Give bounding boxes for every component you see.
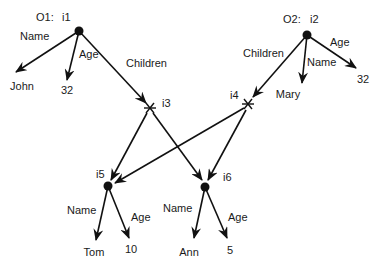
edge-arrow: [208, 110, 246, 180]
object-node-dot-icon: [303, 31, 312, 40]
object-node-dot-icon: [75, 27, 84, 36]
node-label: i2: [310, 13, 319, 25]
values-layer: John32Mary32Tom10Ann5: [10, 73, 369, 258]
edge-label: Name: [67, 204, 96, 216]
object-node-dot-icon: [104, 182, 113, 191]
value-label-age5: 5: [227, 244, 233, 256]
edge-label: Children: [126, 57, 167, 69]
edge-label: Age: [330, 36, 350, 48]
value-label-age32a: 32: [61, 84, 73, 96]
edge-label: Age: [131, 211, 151, 223]
nodes-layer: i1O1:i2O2:i3i4i5i6: [36, 11, 319, 192]
edge-label: Children: [243, 47, 284, 59]
edge-arrow: [96, 186, 108, 240]
value-label-ann: Ann: [179, 246, 199, 258]
node-label: i3: [162, 97, 171, 109]
object-name-label: O2:: [283, 13, 301, 25]
edge-label: Name: [307, 56, 336, 68]
edge-label: Name: [20, 30, 49, 42]
object-node-dot-icon: [201, 183, 210, 192]
edge-arrow: [205, 187, 227, 238]
value-label-age32b: 32: [357, 73, 369, 85]
node-label: i6: [223, 171, 232, 183]
node-label: i5: [96, 168, 105, 180]
edge-label: Age: [228, 211, 248, 223]
object-graph-diagram: NameAgeChildrenChildrenNameAgeNameAgeNam…: [0, 0, 381, 265]
object-name-label: O1:: [36, 11, 54, 23]
edge-arrow: [108, 186, 129, 238]
edge-arrow: [111, 113, 147, 180]
node-label: i4: [230, 89, 239, 101]
value-label-tom: Tom: [84, 246, 105, 258]
value-label-age10: 10: [125, 243, 137, 255]
edge-labels-layer: NameAgeChildrenChildrenNameAgeNameAgeNam…: [20, 30, 350, 223]
value-label-john: John: [10, 80, 34, 92]
node-label: i1: [62, 11, 71, 23]
edge-arrow: [194, 187, 205, 238]
edge-label: Age: [79, 48, 99, 60]
edge-label: Name: [163, 202, 192, 214]
value-label-mary: Mary: [276, 88, 301, 100]
